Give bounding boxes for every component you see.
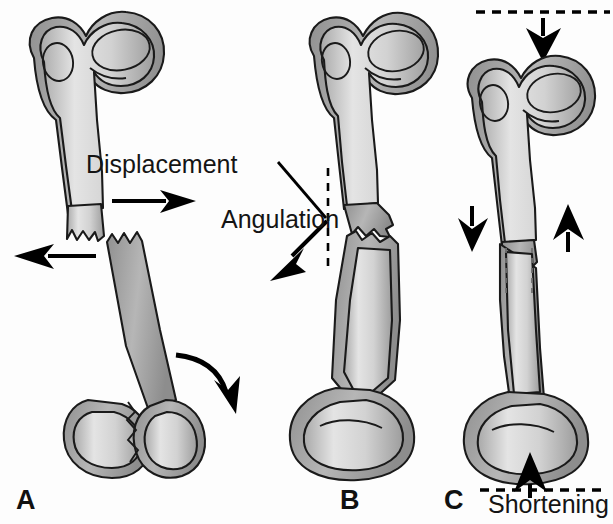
panel-b-illustration [240,0,440,524]
panel-c-illustration [440,0,613,524]
panel-c-label: C [444,487,464,514]
override-arrow-down [458,206,488,252]
panel-b-caption: Angulation [221,207,339,232]
panel-c: Shortening C [440,0,613,524]
figure-canvas: Displacement A [0,0,613,524]
panel-a: Displacement A [0,0,240,524]
bone-proximal-shaft-b [344,203,393,237]
panel-b-label: B [340,487,360,514]
panel-a-label: A [16,487,36,514]
bone-condyle-lateral-face-a [145,412,197,469]
panel-c-caption: Shortening [488,492,609,517]
override-arrow-up [553,204,584,252]
bone-proximal-inner-b [320,24,428,206]
panel-a-illustration [0,0,240,524]
displacement-arrow-left [14,244,96,269]
bone-condyles-inner-b [304,400,403,470]
panel-b: Angulation B [240,0,440,524]
bone-proximal-inner-a [40,23,154,211]
panel-a-caption: Displacement [86,152,237,177]
bone-proximal-shaft-a [67,204,104,241]
bone-distal-shaft-a [107,232,176,414]
displacement-arrow-right [112,190,196,213]
